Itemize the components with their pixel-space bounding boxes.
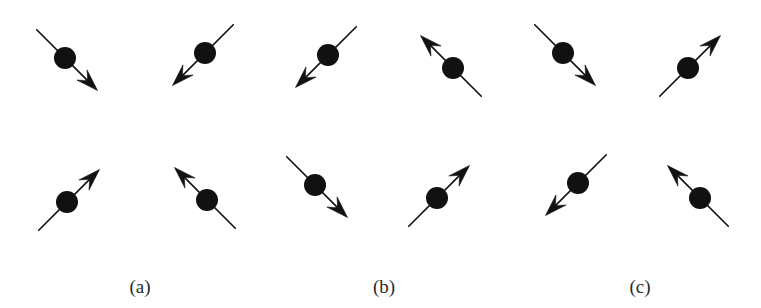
- spin-site-dot: [552, 42, 574, 64]
- figure-background: [0, 0, 761, 308]
- spin-site-dot: [194, 42, 216, 64]
- spin-site-dot: [304, 174, 326, 196]
- spin-site-dot: [56, 191, 78, 213]
- spin-site-dot: [442, 57, 464, 79]
- spin-site-dot: [567, 172, 589, 194]
- panel-caption-b: (b): [373, 277, 395, 296]
- spin-site-dot: [54, 47, 76, 69]
- panel-caption-c: (c): [629, 277, 650, 296]
- panel-caption-a: (a): [129, 277, 150, 296]
- spin-site-dot: [196, 189, 218, 211]
- spin-site-dot: [426, 187, 448, 209]
- spin-site-dot: [677, 57, 699, 79]
- spin-diagram-canvas: [0, 0, 761, 308]
- spin-site-dot: [317, 44, 339, 66]
- figure-root: (a)(b)(c): [0, 0, 761, 308]
- spin-site-dot: [689, 187, 711, 209]
